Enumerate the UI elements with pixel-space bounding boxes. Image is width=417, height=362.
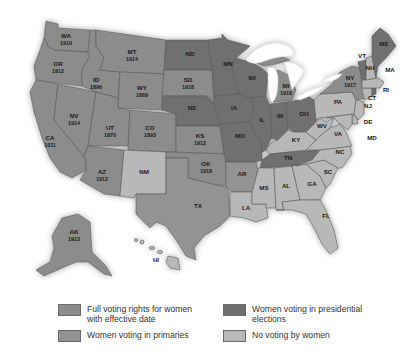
state-label-SC: SC [324,168,333,175]
state-label-AR: AR [238,170,247,177]
state-year-ID: 1896 [90,84,102,90]
legend-label-none: No voting by women [252,330,330,340]
state-label-RI: RI [383,86,389,93]
state-label-IN: IN [277,112,284,119]
state-label-ME: ME [379,40,388,47]
state-year-SD: 1918 [182,84,194,90]
state-year-AZ: 1912 [96,176,108,182]
state-year-AK: 1913 [68,236,80,242]
state-label-NY: NY [346,74,355,81]
state-label-KS: KS [196,132,205,139]
legend-label-presidential: Women voting in presidential elections [252,304,362,324]
state-year-KS: 1912 [194,140,206,146]
state-label-CT: CT [368,94,376,101]
state-label-IL: IL [259,116,265,123]
state-label-WV: WV [317,122,328,129]
state-AK [36,214,112,276]
state-label-FL: FL [322,212,330,219]
legend-item-primaries: Women voting in primaries [58,330,189,342]
state-year-OR: 1912 [52,68,64,74]
state-label-HI: HI [153,256,159,263]
state-label-ND: ND [186,50,195,57]
legend-swatch-none [223,330,246,342]
state-label-AZ: AZ [98,168,106,175]
us-suffrage-map: WA1910OR1912CA1911NV1914ID1896MT1914WY18… [0,0,417,290]
state-label-MA: MA [385,66,395,73]
legend-swatch-presidential [223,304,246,316]
legend: Full voting rights for women with effect… [58,304,388,354]
state-year-CO: 1893 [144,132,156,138]
legend-label-presidential-line2: elections [252,314,362,324]
state-label-CO: CO [145,124,154,131]
state-label-AK: AK [70,228,79,235]
state-label-VA: VA [334,130,343,137]
state-year-UT: 1870 [104,132,116,138]
state-label-OR: OR [53,60,63,67]
state-label-NM: NM [139,168,149,175]
state-label-LA: LA [242,204,251,211]
state-label-GA: GA [307,180,317,187]
state-year-CA: 1911 [44,142,56,148]
state-label-MN: MN [223,60,233,67]
state-label-WY: WY [137,84,148,91]
legend-label-primaries-line1: Women voting in primaries [87,330,189,340]
legend-label-full: Full voting rights for women with effect… [87,304,192,324]
state-label-OK: OK [201,160,211,167]
legend-item-full: Full voting rights for women with effect… [58,304,192,324]
state-label-NH: NH [366,64,375,71]
state-label-NC: NC [336,148,345,155]
state-label-TX: TX [194,202,203,209]
state-label-MI: MI [283,82,290,89]
state-year-OK: 1918 [200,168,212,174]
state-label-MD: MD [367,134,377,141]
state-year-WA: 1910 [60,40,72,46]
state-label-WA: WA [61,32,71,39]
legend-label-none-line1: No voting by women [252,330,330,340]
state-label-WI: WI [248,74,256,81]
legend-item-presidential: Women voting in presidential elections [223,304,362,324]
state-label-OH: OH [299,110,309,117]
state-label-UT: UT [106,124,114,131]
legend-swatch-primaries [58,330,81,342]
legend-item-none: No voting by women [223,330,330,342]
state-label-KY: KY [292,136,301,143]
state-label-PA: PA [334,98,343,105]
state-label-DE: DE [364,118,373,125]
state-label-VT: VT [358,52,366,59]
state-FL [276,200,338,254]
state-year-MT: 1914 [126,56,138,62]
legend-label-presidential-line1: Women voting in presidential [252,304,362,314]
state-label-MO: MO [235,132,245,139]
state-label-TN: TN [284,154,293,161]
legend-label-primaries: Women voting in primaries [87,330,189,340]
state-year-MI: 1918 [280,90,292,96]
state-label-NJ: NJ [364,102,372,109]
state-HI [134,238,180,270]
state-label-IA: IA [231,104,238,111]
legend-label-full-line1: Full voting rights for women [87,304,192,314]
state-label-CA: CA [46,134,55,141]
state-label-ID: ID [93,76,100,83]
state-year-NV: 1914 [68,120,80,126]
legend-swatch-full [58,304,81,316]
state-year-WY: 1869 [136,92,148,98]
state-label-MT: MT [128,48,137,55]
state-year-NY: 1917 [344,82,356,88]
state-label-AL: AL [282,182,290,189]
state-label-NV: NV [70,112,79,119]
state-label-SD: SD [184,76,193,83]
legend-label-full-line2: with effective date [87,314,192,324]
state-label-NE: NE [188,104,197,111]
state-label-MS: MS [259,184,268,191]
